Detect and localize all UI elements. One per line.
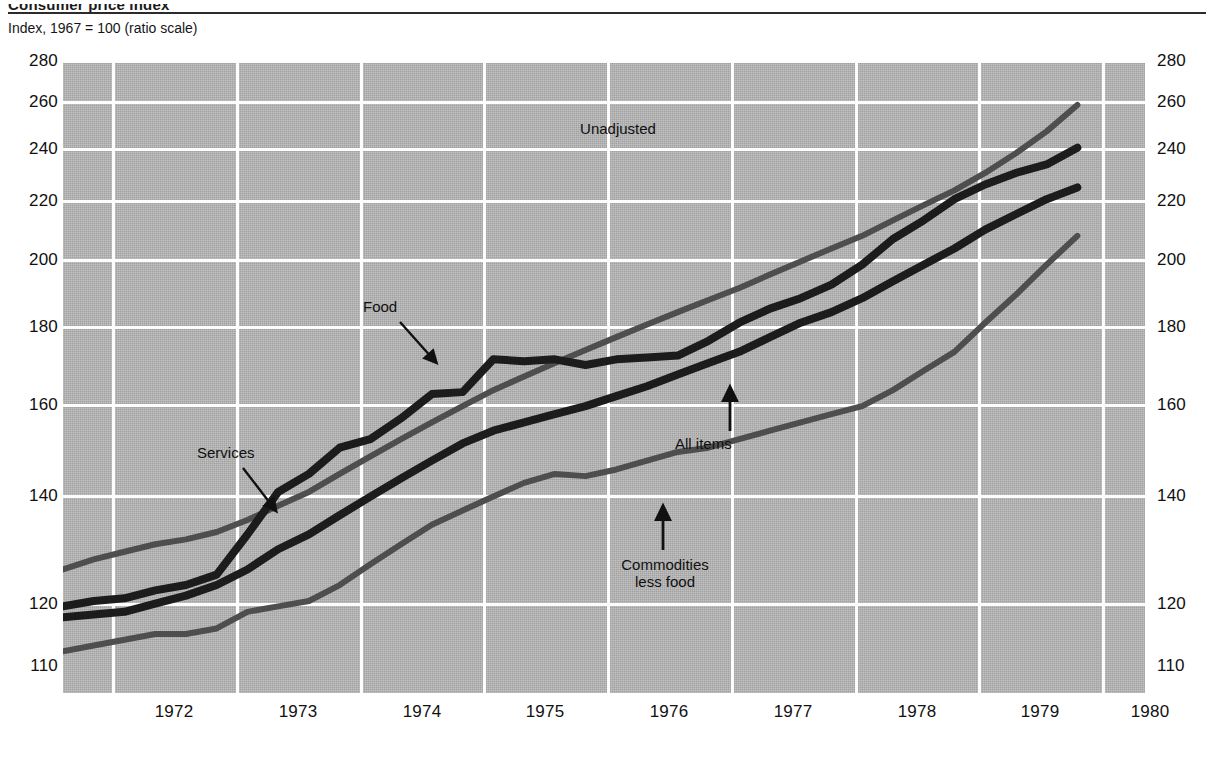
plot-area: Unadjusted Food Services All items Commo…	[63, 60, 1145, 693]
annotation-commodities-line2: less food	[621, 573, 709, 590]
xtick-1974: 1974	[403, 702, 442, 722]
ytick-left-280: 280	[29, 52, 58, 69]
annotation-services: Services	[197, 444, 255, 461]
series-lines	[63, 60, 1145, 693]
ytick-right-240: 240	[1157, 140, 1186, 157]
annotation-unadjusted: Unadjusted	[580, 120, 656, 137]
ytick-left-110: 110	[30, 657, 58, 674]
ytick-right-110: 110	[1157, 657, 1185, 674]
xtick-1976: 1976	[650, 702, 689, 722]
xtick-1975: 1975	[526, 702, 565, 722]
ytick-left-240: 240	[29, 140, 58, 157]
ytick-right-160: 160	[1157, 396, 1186, 413]
ytick-left-220: 220	[29, 192, 58, 209]
title-divider	[8, 12, 1206, 14]
ytick-right-280: 280	[1157, 52, 1186, 69]
axis-note: Index, 1967 = 100 (ratio scale)	[8, 20, 198, 36]
xtick-1972: 1972	[155, 702, 194, 722]
ytick-left-160: 160	[29, 396, 58, 413]
xtick-1973: 1973	[279, 702, 318, 722]
xtick-1977: 1977	[774, 702, 813, 722]
ytick-right-180: 180	[1157, 318, 1186, 335]
ytick-right-140: 140	[1157, 487, 1186, 504]
xtick-1978: 1978	[898, 702, 937, 722]
ytick-left-260: 260	[29, 93, 58, 110]
ytick-right-260: 260	[1157, 93, 1186, 110]
ytick-left-120: 120	[29, 595, 58, 612]
annotation-commodities-line1: Commodities	[621, 556, 709, 573]
xtick-1979: 1979	[1021, 702, 1060, 722]
ytick-right-120: 120	[1157, 595, 1186, 612]
ytick-left-180: 180	[29, 318, 58, 335]
annotation-all-items: All items	[675, 435, 732, 452]
annotation-food: Food	[363, 298, 397, 315]
ytick-left-140: 140	[29, 487, 58, 504]
series-line-food	[63, 148, 1077, 607]
annotation-commodities: Commodities less food	[621, 556, 709, 591]
xtick-1980: 1980	[1131, 702, 1170, 722]
ytick-right-220: 220	[1157, 192, 1186, 209]
chart-page: Consumer price index Index, 1967 = 100 (…	[0, 0, 1214, 761]
series-line-services	[63, 105, 1077, 569]
ytick-right-200: 200	[1157, 251, 1186, 268]
series-line-all-items	[63, 187, 1077, 617]
ytick-left-200: 200	[29, 251, 58, 268]
